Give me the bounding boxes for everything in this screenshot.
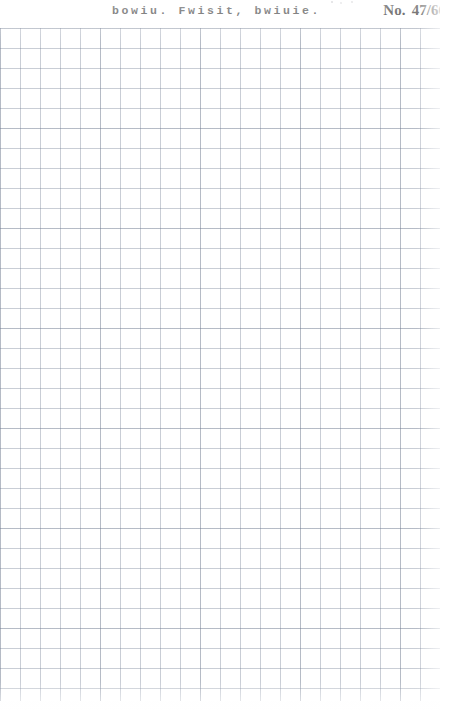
plate-number: No.47/66 [383, 1, 446, 19]
page-right-margin [440, 0, 453, 710]
plate-number-label: No. [383, 2, 406, 18]
page-header: bowiu. Fwisit, bwiuie. No.47/66 [0, 0, 453, 28]
scan-speckle-artifact [330, 1, 358, 4]
scanned-page: bowiu. Fwisit, bwiuie. No.47/66 [0, 0, 453, 710]
graph-paper-grid [0, 28, 440, 701]
graph-paper-major-gridlines [0, 28, 440, 701]
page-caption: bowiu. Fwisit, bwiuie. [112, 3, 321, 18]
